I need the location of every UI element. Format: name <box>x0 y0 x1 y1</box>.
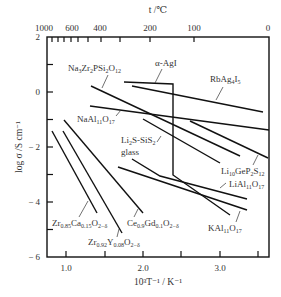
label-kal11o17: KAl11O17 <box>208 223 242 234</box>
x-axis-title: 10³T⁻¹ / K⁻¹ <box>134 277 182 287</box>
arrow-ce-gd-o <box>134 209 138 217</box>
arrow-kal11o17 <box>236 211 240 222</box>
bottom-ticks <box>66 251 258 257</box>
series-rbag4i5 <box>132 86 263 112</box>
arrow-lial11o17 <box>220 183 226 188</box>
label-na3zr2psi2o12: Na3Zr2PSi2O12 <box>68 63 121 74</box>
left-ticks <box>47 65 53 230</box>
label-ce-gd-o: Ce0.9Gd0.1O2−δ <box>127 218 179 229</box>
label-glass: glass <box>121 147 139 157</box>
label-rbag4i5: RbAg4I5 <box>210 74 241 85</box>
arrow-alpha-agi <box>155 69 162 83</box>
series-zr-ca-o <box>52 131 97 213</box>
top-tick-0: 0 <box>266 23 271 33</box>
label-naal11o17: NaAl11O17 <box>77 114 115 125</box>
top-axis-title: t /℃ <box>149 5 168 15</box>
arrow-rbag4i5 <box>216 87 223 100</box>
top-tick-400: 400 <box>93 23 107 33</box>
x-tick-3: 3.0 <box>214 263 226 273</box>
label-li2s-sis2: Li2S-SiS2 <box>121 135 156 146</box>
x-tick-2: 2.0 <box>137 263 149 273</box>
data-lines <box>52 82 269 233</box>
arrow-na3zr2psi2o12 <box>102 75 108 88</box>
label-zr-y-o: Zr0.92Y0.08O2−δ <box>88 237 140 248</box>
top-ticks <box>52 37 194 42</box>
label-alpha-agi: α-AgI <box>155 58 177 68</box>
y-axis-title: log σ /S cm⁻¹ <box>14 121 24 173</box>
top-tick-100: 100 <box>187 23 201 33</box>
arrow-zr-ca-o <box>79 201 88 217</box>
y-tick-2: 2 <box>36 32 41 42</box>
conductivity-chart: t /℃ 1000 600 400 200 100 0 2 0 − 2 − 4 … <box>0 0 281 297</box>
label-li10gep2s12: Li10GeP2S12 <box>221 166 265 177</box>
y-tick-minus4: − 4 <box>28 197 40 207</box>
x-tick-1: 1.0 <box>60 263 72 273</box>
label-zr-ca-o: Zr0.85Ca0.15O2−δ <box>52 218 107 229</box>
arrow-li2s-sis2 <box>157 136 161 142</box>
arrow-zr-y-o <box>117 229 119 237</box>
series-ce-gd-o <box>64 120 143 213</box>
top-tick-200: 200 <box>143 23 157 33</box>
series-naal11o17 <box>90 106 269 130</box>
y-tick-0: 0 <box>36 87 41 97</box>
label-lial11o17: LiAl11O17 <box>229 179 264 190</box>
arrow-naal11o17 <box>116 110 121 116</box>
y-tick-minus2: − 2 <box>28 142 40 152</box>
y-tick-minus6: − 6 <box>28 252 40 262</box>
arrow-li10gep2s12 <box>253 155 258 165</box>
top-tick-600: 600 <box>65 23 79 33</box>
